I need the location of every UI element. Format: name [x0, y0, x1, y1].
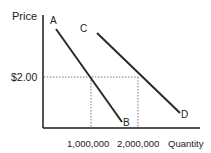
curve-label-c: C: [80, 24, 87, 34]
curve-label-d: D: [181, 110, 188, 120]
x-axis-label: Quantity: [168, 139, 203, 149]
curve-label-b: B: [123, 118, 130, 128]
price-tick-label: $2.00: [11, 72, 37, 83]
curve-cd: [97, 33, 180, 113]
y-axis-label: Price: [12, 11, 37, 22]
x-tick-1000000: 1,000,000: [67, 139, 109, 149]
x-tick-2000000: 2,000,000: [117, 139, 159, 149]
curve-label-a: A: [50, 16, 57, 26]
curve-ab: [56, 29, 122, 122]
